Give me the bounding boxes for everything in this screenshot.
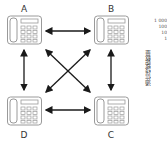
node-label-d: D	[14, 130, 34, 140]
axis-tick-1000: 1 000	[143, 18, 167, 23]
axis-tick-10: 10	[143, 30, 167, 35]
telephone-icon-b	[94, 15, 129, 45]
axis-tick-1: 1	[143, 36, 167, 41]
node-label-b: B	[101, 4, 121, 14]
node-label-c: C	[101, 130, 121, 140]
axis-label: 通信线路数量	[144, 50, 152, 86]
axis-tick-100: 100	[143, 24, 167, 29]
node-label-a: A	[14, 4, 34, 14]
telephone-icon-c	[94, 96, 129, 126]
telephone-icon-a	[7, 15, 42, 45]
telephone-icon-d	[7, 96, 42, 126]
